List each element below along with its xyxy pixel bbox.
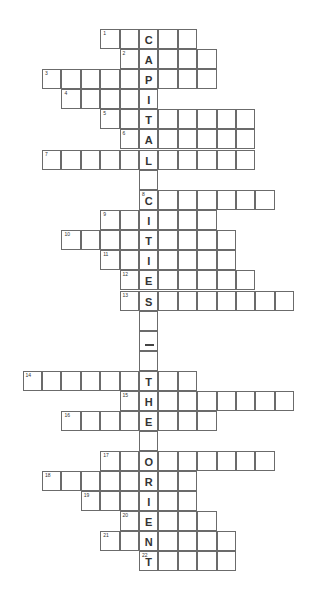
answer-cell[interactable]: 6 bbox=[120, 129, 139, 149]
answer-cell[interactable] bbox=[197, 250, 216, 270]
answer-cell[interactable] bbox=[158, 129, 177, 149]
answer-cell[interactable] bbox=[81, 150, 100, 170]
answer-cell[interactable]: 19 bbox=[81, 491, 100, 511]
answer-cell[interactable] bbox=[61, 69, 80, 89]
answer-cell[interactable] bbox=[197, 411, 216, 431]
answer-cell[interactable] bbox=[158, 451, 177, 471]
answer-cell[interactable] bbox=[275, 391, 294, 411]
answer-cell[interactable] bbox=[120, 411, 139, 431]
answer-cell[interactable] bbox=[197, 551, 216, 571]
answer-cell[interactable] bbox=[81, 471, 100, 491]
answer-cell[interactable] bbox=[178, 29, 197, 49]
answer-cell[interactable] bbox=[217, 551, 236, 571]
answer-cell[interactable] bbox=[120, 531, 139, 551]
answer-cell[interactable] bbox=[81, 230, 100, 250]
answer-cell[interactable] bbox=[100, 411, 119, 431]
answer-cell[interactable] bbox=[120, 89, 139, 109]
answer-cell[interactable] bbox=[100, 471, 119, 491]
answer-cell[interactable] bbox=[217, 391, 236, 411]
answer-cell[interactable] bbox=[217, 270, 236, 290]
answer-cell[interactable]: 1 bbox=[100, 29, 119, 49]
answer-cell[interactable] bbox=[158, 270, 177, 290]
answer-cell[interactable] bbox=[178, 471, 197, 491]
answer-cell[interactable] bbox=[236, 391, 255, 411]
answer-cell[interactable] bbox=[100, 491, 119, 511]
answer-cell[interactable] bbox=[217, 129, 236, 149]
answer-cell[interactable]: 21 bbox=[100, 531, 119, 551]
answer-cell[interactable] bbox=[236, 270, 255, 290]
answer-cell[interactable] bbox=[217, 531, 236, 551]
answer-cell[interactable] bbox=[236, 190, 255, 210]
answer-cell[interactable] bbox=[120, 451, 139, 471]
answer-cell[interactable] bbox=[217, 190, 236, 210]
answer-cell[interactable]: 5 bbox=[100, 109, 119, 129]
answer-cell[interactable]: 11 bbox=[100, 250, 119, 270]
answer-cell[interactable] bbox=[178, 511, 197, 531]
answer-cell[interactable] bbox=[81, 69, 100, 89]
answer-cell[interactable]: 4 bbox=[61, 89, 80, 109]
answer-cell[interactable]: 14 bbox=[23, 371, 42, 391]
answer-cell[interactable] bbox=[178, 250, 197, 270]
answer-cell[interactable] bbox=[100, 69, 119, 89]
answer-cell[interactable] bbox=[178, 270, 197, 290]
answer-cell[interactable] bbox=[178, 150, 197, 170]
answer-cell[interactable] bbox=[197, 190, 216, 210]
answer-cell[interactable] bbox=[197, 511, 216, 531]
answer-cell[interactable] bbox=[178, 129, 197, 149]
answer-cell[interactable] bbox=[178, 551, 197, 571]
answer-cell[interactable] bbox=[197, 270, 216, 290]
answer-cell[interactable] bbox=[178, 49, 197, 69]
answer-cell[interactable] bbox=[255, 190, 274, 210]
answer-cell[interactable] bbox=[217, 451, 236, 471]
answer-cell[interactable] bbox=[158, 551, 177, 571]
answer-cell[interactable] bbox=[255, 391, 274, 411]
answer-cell[interactable] bbox=[158, 150, 177, 170]
answer-cell[interactable] bbox=[236, 129, 255, 149]
answer-cell[interactable] bbox=[120, 491, 139, 511]
answer-cell[interactable] bbox=[178, 69, 197, 89]
answer-cell[interactable] bbox=[158, 471, 177, 491]
answer-cell[interactable] bbox=[197, 150, 216, 170]
answer-cell[interactable] bbox=[120, 69, 139, 89]
answer-cell[interactable]: 3 bbox=[42, 69, 61, 89]
answer-cell[interactable] bbox=[178, 371, 197, 391]
answer-cell[interactable] bbox=[275, 291, 294, 311]
answer-cell[interactable]: 7 bbox=[42, 150, 61, 170]
answer-cell[interactable]: 9 bbox=[100, 210, 119, 230]
answer-cell[interactable] bbox=[120, 29, 139, 49]
answer-cell[interactable] bbox=[178, 531, 197, 551]
answer-cell[interactable] bbox=[120, 109, 139, 129]
answer-cell[interactable] bbox=[178, 451, 197, 471]
answer-cell[interactable] bbox=[158, 511, 177, 531]
answer-cell[interactable] bbox=[178, 190, 197, 210]
answer-cell[interactable] bbox=[158, 531, 177, 551]
answer-cell[interactable] bbox=[236, 109, 255, 129]
answer-cell[interactable]: 18 bbox=[42, 471, 61, 491]
answer-cell[interactable] bbox=[158, 391, 177, 411]
answer-cell[interactable] bbox=[100, 230, 119, 250]
answer-cell[interactable] bbox=[81, 89, 100, 109]
answer-cell[interactable] bbox=[255, 291, 274, 311]
answer-cell[interactable]: 17 bbox=[100, 451, 119, 471]
answer-cell[interactable] bbox=[100, 371, 119, 391]
answer-cell[interactable] bbox=[120, 210, 139, 230]
answer-cell[interactable] bbox=[120, 250, 139, 270]
answer-cell[interactable] bbox=[158, 29, 177, 49]
answer-cell[interactable] bbox=[81, 371, 100, 391]
answer-cell[interactable] bbox=[197, 230, 216, 250]
answer-cell[interactable] bbox=[178, 210, 197, 230]
answer-cell[interactable] bbox=[217, 150, 236, 170]
answer-cell[interactable] bbox=[120, 471, 139, 491]
answer-cell[interactable] bbox=[217, 109, 236, 129]
answer-cell[interactable] bbox=[61, 371, 80, 391]
answer-cell[interactable] bbox=[217, 291, 236, 311]
answer-cell[interactable] bbox=[100, 150, 119, 170]
answer-cell[interactable] bbox=[236, 451, 255, 471]
answer-cell[interactable] bbox=[197, 451, 216, 471]
answer-cell[interactable] bbox=[81, 411, 100, 431]
answer-cell[interactable] bbox=[42, 371, 61, 391]
answer-cell[interactable] bbox=[178, 491, 197, 511]
answer-cell[interactable] bbox=[158, 491, 177, 511]
answer-cell[interactable] bbox=[158, 371, 177, 391]
answer-cell[interactable] bbox=[197, 291, 216, 311]
